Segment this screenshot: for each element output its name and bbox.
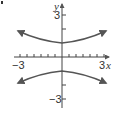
x-axis-label: x bbox=[105, 59, 111, 71]
y-tick-label-3: 3 bbox=[54, 9, 60, 21]
x-tick-label-neg3: −3 bbox=[12, 59, 25, 71]
x-tick-label-3: 3 bbox=[99, 59, 105, 71]
hyperbola-chart: y 3 −3 −3 3 x bbox=[0, 0, 113, 113]
y-tick-label-neg3: −3 bbox=[49, 93, 62, 105]
bullet-mark bbox=[1, 1, 3, 4]
